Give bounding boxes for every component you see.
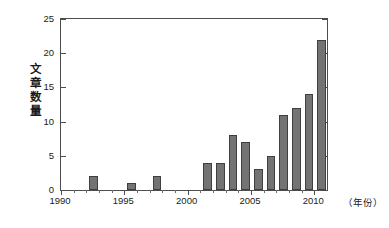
x-axis-minor-tick bbox=[276, 190, 277, 193]
x-axis-minor-tick bbox=[86, 190, 87, 193]
x-axis-minor-tick bbox=[213, 190, 214, 193]
x-axis-minor-tick bbox=[302, 190, 303, 193]
x-axis-minor-tick bbox=[162, 190, 163, 193]
x-axis-minor-tick bbox=[99, 190, 100, 193]
y-axis-tick-label: 10 bbox=[30, 115, 54, 126]
bar bbox=[267, 156, 276, 190]
x-axis-minor-tick bbox=[238, 190, 239, 193]
x-axis-tick-label: 2010 bbox=[293, 195, 333, 206]
y-axis-tick-label: 15 bbox=[30, 81, 54, 92]
bar bbox=[153, 176, 162, 190]
bar bbox=[254, 169, 263, 190]
x-axis-minor-tick bbox=[264, 190, 265, 193]
y-axis-tick bbox=[61, 19, 66, 20]
y-axis-tick bbox=[61, 122, 66, 123]
y-axis-tick bbox=[61, 87, 66, 88]
bar bbox=[89, 176, 98, 190]
y-axis-tick bbox=[61, 53, 66, 54]
y-axis-tick-label: 25 bbox=[30, 13, 54, 24]
x-axis-tick-label: 1990 bbox=[40, 195, 80, 206]
y-axis-tick-label: 5 bbox=[30, 149, 54, 160]
y-axis-title-char: 文 bbox=[27, 62, 43, 76]
bar bbox=[317, 40, 326, 190]
bar bbox=[203, 163, 212, 190]
bar bbox=[127, 183, 136, 190]
x-axis-minor-tick bbox=[74, 190, 75, 193]
bar bbox=[292, 108, 301, 190]
bar bbox=[305, 94, 314, 190]
x-axis-minor-tick bbox=[226, 190, 227, 193]
x-axis-minor-tick bbox=[112, 190, 113, 193]
x-axis-minor-tick bbox=[150, 190, 151, 193]
bar-chart-figure: 文章数量 （年份） 051015202519901995200020052010 bbox=[0, 0, 389, 228]
x-axis-unit-label: （年份） bbox=[343, 195, 383, 209]
y-axis-tick-label: 20 bbox=[30, 47, 54, 58]
x-axis-tick-label: 2000 bbox=[167, 195, 207, 206]
y-axis-title-char: 数 bbox=[27, 90, 43, 104]
bar bbox=[216, 163, 225, 190]
y-axis-tick bbox=[61, 156, 66, 157]
x-axis-tick-label: 1995 bbox=[103, 195, 143, 206]
x-axis-minor-tick bbox=[200, 190, 201, 193]
x-axis-minor-tick bbox=[175, 190, 176, 193]
bar bbox=[241, 142, 250, 190]
x-axis-minor-tick bbox=[289, 190, 290, 193]
x-axis-minor-tick bbox=[137, 190, 138, 193]
plot-inner bbox=[61, 19, 327, 190]
y-axis-tick-right bbox=[322, 19, 327, 20]
x-axis-tick-label: 2005 bbox=[230, 195, 270, 206]
y-axis-tick-right bbox=[322, 190, 327, 191]
bar bbox=[279, 115, 288, 190]
bar bbox=[229, 135, 238, 190]
plot-area bbox=[60, 18, 328, 191]
y-axis-tick-label: 0 bbox=[30, 184, 54, 195]
